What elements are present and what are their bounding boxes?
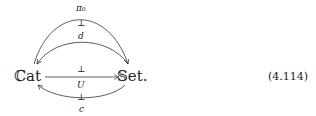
arrow-d [37,42,128,64]
adjoint-U-c: ⊥ [77,92,85,102]
label-c: c [79,104,84,114]
equation-number: (4.114) [268,70,308,83]
label-d: d [78,31,84,41]
adjoint-d-U: ⊥ [77,64,85,74]
adjoint-pi0-d: ⊥ [77,18,85,28]
diagram-arrows [0,0,316,116]
label-pi0: π₀ [76,3,86,13]
label-U: U [77,80,85,90]
object-cat: ℂat [14,67,41,85]
object-set: 𝕊et. [117,67,148,85]
